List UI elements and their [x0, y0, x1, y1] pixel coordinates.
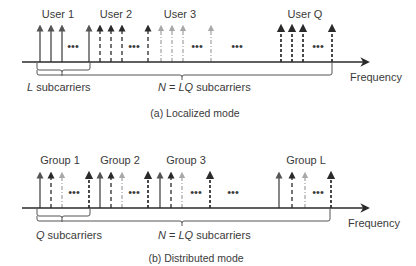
group-3-subcarriers: ••• [160, 175, 210, 208]
bracket-small [37, 63, 90, 76]
equals-sign: = [166, 81, 179, 93]
ellipsis-between-groups: ••• [231, 40, 243, 52]
bracket-big [37, 63, 332, 80]
ofdma-subcarrier-diagram: User 1 User 2 User 3 User Q ••• ••• ••• [0, 0, 416, 266]
group-l-subcarriers: ••• [279, 175, 331, 208]
ellipsis: ••• [128, 40, 140, 52]
caption-distributed: (b) Distributed mode [148, 252, 243, 264]
user-2-subcarriers: ••• [100, 28, 148, 62]
ellipsis-between-groups: ••• [227, 186, 239, 198]
group-label-group-l: Group L [286, 154, 326, 166]
ellipsis: ••• [312, 186, 324, 198]
small-bracket-label: L subcarriers [27, 81, 91, 93]
user-1-subcarriers: ••• [40, 28, 89, 62]
panel-localized: User 1 User 2 User 3 User Q ••• ••• ••• [22, 8, 402, 119]
panel-distributed: Group 1 Group 2 Group 3 Group L ••• ••• … [22, 154, 400, 264]
small-bracket-text: subcarriers [45, 229, 103, 241]
big-bracket-label: N = LQ subcarriers [158, 229, 251, 241]
var-lq: LQ [179, 229, 194, 241]
big-bracket-text: subcarriers [193, 229, 251, 241]
bracket-big [37, 209, 330, 226]
group-label-group-1: Group 1 [40, 154, 80, 166]
big-bracket-label: N = LQ subcarriers [158, 81, 251, 93]
group-label-group-3: Group 3 [166, 154, 206, 166]
group-label-group-2: Group 2 [100, 154, 140, 166]
group-label-user-q: User Q [288, 8, 323, 20]
ellipsis: ••• [191, 40, 203, 52]
bracket-small [37, 209, 90, 222]
group-label-user-1: User 1 [42, 8, 74, 20]
var-n: N [158, 229, 166, 241]
var-n: N [158, 81, 166, 93]
user-q-subcarriers: ••• [281, 28, 332, 62]
group-1-subcarriers: ••• [40, 175, 89, 208]
group-label-user-2: User 2 [100, 8, 132, 20]
axis-label-frequency: Frequency [350, 71, 402, 83]
user-3-subcarriers: ••• [161, 28, 211, 62]
group-2-subcarriers: ••• [100, 175, 148, 208]
small-bracket-text: subcarriers [33, 81, 91, 93]
caption-localized: (a) Localized mode [150, 107, 239, 119]
equals-sign: = [166, 229, 179, 241]
ellipsis: ••• [128, 186, 140, 198]
ellipsis: ••• [68, 186, 80, 198]
group-label-user-3: User 3 [164, 8, 196, 20]
big-bracket-text: subcarriers [193, 81, 251, 93]
axis-label-frequency: Frequency [348, 217, 400, 229]
ellipsis: ••• [67, 40, 79, 52]
ellipsis: ••• [190, 186, 202, 198]
small-bracket-label: Q subcarriers [36, 229, 103, 241]
ellipsis: ••• [312, 40, 324, 52]
var-lq: LQ [179, 81, 194, 93]
